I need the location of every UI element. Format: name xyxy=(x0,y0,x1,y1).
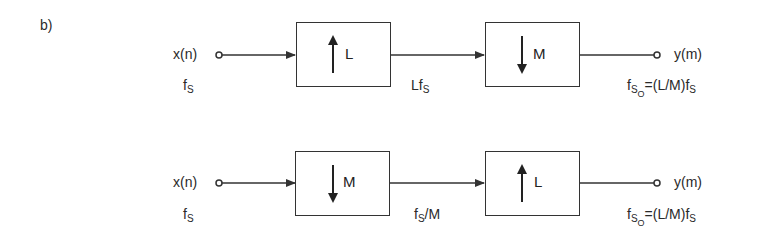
arrow-up-icon xyxy=(514,164,534,204)
input-label: x(n) xyxy=(173,46,197,62)
figure-label: b) xyxy=(40,17,52,33)
input-label: x(n) xyxy=(173,174,197,190)
output-rate: fSO=(L/M)fS xyxy=(627,77,696,99)
block-factor: M xyxy=(533,45,546,62)
intermediate-rate: LfS xyxy=(411,77,429,95)
intermediate-rate: fS/M xyxy=(414,206,440,224)
downsampler-block: M xyxy=(295,151,390,216)
output-label: y(m) xyxy=(674,46,702,62)
output-label: y(m) xyxy=(674,174,702,190)
input-terminal-icon xyxy=(216,180,222,186)
arrow-up-icon xyxy=(325,35,345,75)
output-terminal-icon xyxy=(654,52,660,58)
downsampler-block: M xyxy=(485,22,580,87)
output-rate: fSO=(L/M)fS xyxy=(627,206,696,228)
output-terminal-icon xyxy=(654,180,660,186)
upsampler-block: L xyxy=(485,151,580,216)
upsampler-block: L xyxy=(296,22,391,87)
input-rate: fS xyxy=(183,77,194,95)
arrow-down-icon xyxy=(514,36,534,76)
block-factor: L xyxy=(534,173,542,190)
arrow-down-icon xyxy=(325,165,345,205)
input-rate: fS xyxy=(183,206,194,224)
block-factor: M xyxy=(343,173,356,190)
block-factor: L xyxy=(345,45,353,62)
input-terminal-icon xyxy=(216,52,222,58)
